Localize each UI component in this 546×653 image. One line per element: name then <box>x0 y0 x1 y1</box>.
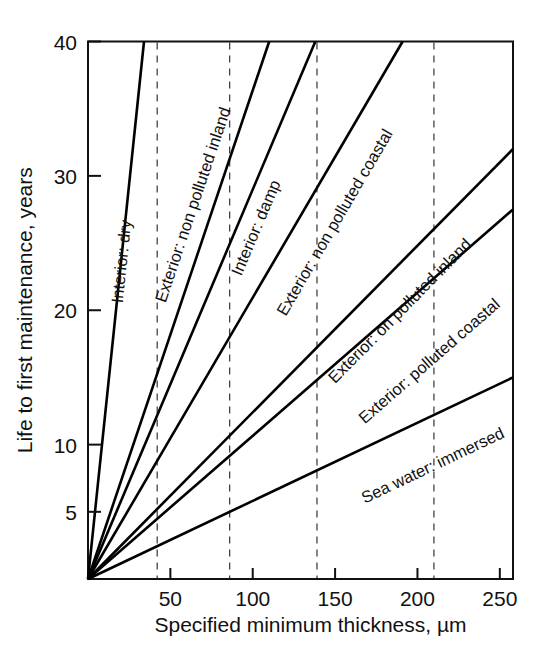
x-tick-label-200: 200 <box>400 587 435 610</box>
axis-ticks-group <box>88 42 500 580</box>
series-line-6 <box>88 377 513 579</box>
series-label-6: Sea water: immersed <box>358 423 507 506</box>
x-tick-labels-group: 50100150200250 <box>159 587 518 610</box>
x-tick-label-50: 50 <box>159 587 182 610</box>
y-tick-label-10: 10 <box>54 434 77 457</box>
plot-frame <box>88 42 513 580</box>
y-tick-label-5: 5 <box>65 501 77 524</box>
series-labels-group: Interior: dryExterior: non polluted inla… <box>108 105 507 507</box>
y-tick-label-30: 30 <box>54 165 77 188</box>
x-axis-title: Specified minimum thickness, µm <box>154 613 466 636</box>
series-label-3: Exterior: non polluted coastal <box>273 126 396 319</box>
x-tick-label-250: 250 <box>482 587 517 610</box>
y-tick-label-40: 40 <box>54 31 77 54</box>
series-label-1: Exterior: non polluted inland <box>151 105 233 305</box>
chart-svg: 50100150200250 510203040 Interior: dryEx… <box>0 0 546 653</box>
x-tick-label-100: 100 <box>235 587 270 610</box>
y-tick-labels-group: 510203040 <box>54 31 77 524</box>
y-tick-label-20: 20 <box>54 299 77 322</box>
series-label-4: Exterior: on polluted inland <box>324 235 474 387</box>
series-label-0: Interior: dry <box>108 218 135 304</box>
data-series-group <box>88 42 513 580</box>
x-tick-label-150: 150 <box>318 587 353 610</box>
axis-frame <box>88 42 513 580</box>
y-axis-title: Life to first maintenance, years <box>13 167 36 453</box>
chart-figure: 50100150200250 510203040 Interior: dryEx… <box>0 0 546 653</box>
series-label-5: Exterior: polluted coastal <box>355 295 503 427</box>
